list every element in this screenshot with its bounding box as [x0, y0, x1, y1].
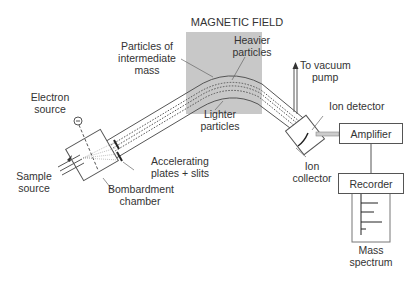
electron-source-label: Electron source — [30, 91, 70, 115]
vacuum-pipe — [294, 69, 297, 114]
bombardment-chamber-label: Bombardment chamber — [108, 183, 172, 207]
lighter-particles-label: Lighter particles — [198, 108, 242, 132]
vacuum-pump-label: To vacuum pump — [300, 59, 352, 83]
spectrum-paper — [352, 192, 390, 242]
mass-spectrometer-diagram: MAGNETIC FIELD Electron source Sample so… — [0, 0, 417, 283]
accelerating-plates-label: Accelerating plates + slits — [151, 155, 221, 179]
vacuum-arrow-icon — [293, 62, 299, 69]
mass-spectrum-label: Mass spectrum — [346, 244, 396, 268]
heavier-particles-label: Heavier particles — [230, 34, 274, 58]
detector-connector — [316, 132, 339, 136]
intermediate-mass-label: Particles of intermediate mass — [116, 40, 178, 76]
sample-source-label: Sample source — [14, 170, 54, 194]
magnetic-field-title: MAGNETIC FIELD — [186, 16, 288, 28]
ion-collector-label: Ion collector — [290, 160, 334, 184]
recorder-box: Recorder — [338, 173, 404, 194]
ion-detector-label: Ion detector — [329, 100, 391, 112]
amplifier-box: Amplifier — [339, 123, 403, 144]
